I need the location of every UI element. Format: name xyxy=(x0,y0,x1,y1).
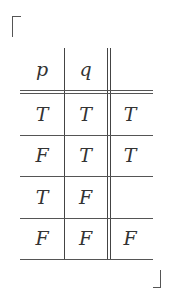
cell-result xyxy=(107,176,153,218)
table-row: T F xyxy=(20,176,153,218)
cell-q: T xyxy=(64,93,107,135)
corner-bracket-top-left xyxy=(12,16,21,37)
header-result xyxy=(107,48,153,90)
cell-q: F xyxy=(64,218,107,260)
cell-p: T xyxy=(20,176,64,218)
cell-q: T xyxy=(64,135,107,177)
cell-p: F xyxy=(20,135,64,177)
cell-p: T xyxy=(20,93,64,135)
table-row: F F F xyxy=(20,218,153,260)
table-header-row: p q xyxy=(20,48,153,90)
cell-q: F xyxy=(64,176,107,218)
cell-result: F xyxy=(107,218,153,260)
table-bottom-border xyxy=(20,259,153,260)
table-row: T T T xyxy=(20,93,153,135)
cell-result: T xyxy=(107,135,153,177)
cell-p: F xyxy=(20,218,64,260)
cell-result: T xyxy=(107,93,153,135)
header-q: q xyxy=(64,48,107,90)
truth-table: p q T T T F T T T F F F F xyxy=(20,48,153,259)
header-p: p xyxy=(20,48,64,90)
corner-bracket-bottom-right xyxy=(153,270,161,288)
table-row: F T T xyxy=(20,135,153,177)
